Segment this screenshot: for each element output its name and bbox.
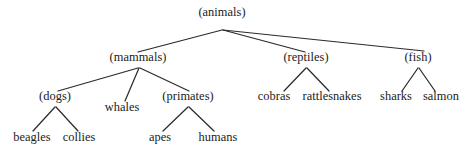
tree-node-dogs: (dogs) [39,90,71,102]
tree-node-sharks: sharks [380,90,412,102]
tree-node-salmon: salmon [423,90,459,102]
tree-node-fish: (fish) [404,51,431,63]
tree-node-apes: apes [149,131,171,143]
tree-node-primates: (primates) [162,90,213,102]
tree-node-beagles: beagles [13,131,51,143]
tree-node-reptiles: (reptiles) [283,51,328,63]
taxonomy-tree-diagram: (animals)(mammals)(reptiles)(fish)(dogs)… [0,0,473,154]
tree-node-mammals: (mammals) [110,51,167,63]
tree-node-collies: collies [63,131,96,143]
tree-node-humans: humans [199,131,238,143]
tree-node-whales: whales [105,101,140,113]
tree-node-rattlesnakes: rattlesnakes [302,90,361,102]
tree-node-cobras: cobras [258,90,291,102]
tree-node-layer: (animals)(mammals)(reptiles)(fish)(dogs)… [0,0,473,154]
tree-node-animals: (animals) [198,6,245,18]
